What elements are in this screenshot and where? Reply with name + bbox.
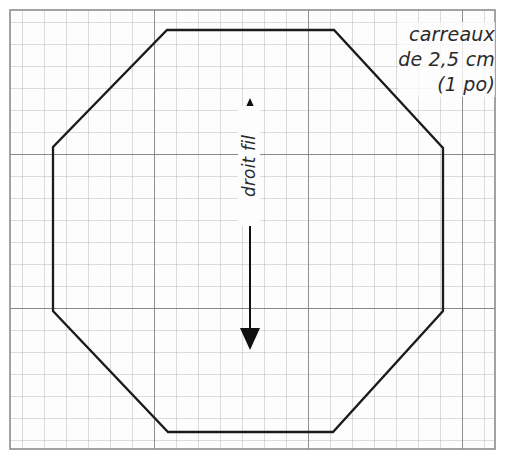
scale-note-line-3: (1 po) bbox=[398, 72, 495, 97]
scale-note-line-1: carreaux bbox=[398, 22, 495, 47]
scale-note-line-2: de 2,5 cm bbox=[398, 47, 495, 72]
pattern-figure-canvas: droit fil carreaux de 2,5 cm (1 po) bbox=[0, 0, 506, 464]
scale-note: carreaux de 2,5 cm (1 po) bbox=[398, 22, 495, 97]
grainline-label: droit fil bbox=[238, 106, 260, 226]
